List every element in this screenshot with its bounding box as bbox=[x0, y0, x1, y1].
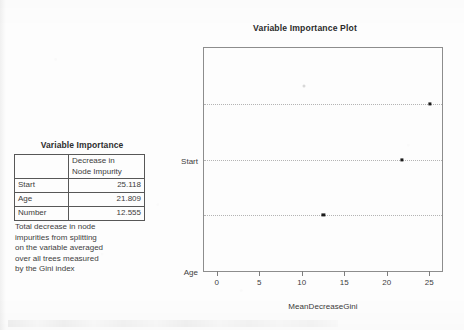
table-row-value: 21.809 bbox=[69, 193, 145, 207]
x-axis-tick-mark bbox=[217, 271, 218, 276]
x-axis-tick-mark bbox=[387, 271, 388, 276]
x-axis-tick-label: 10 bbox=[297, 278, 306, 287]
footnote-line: over all trees measured bbox=[15, 254, 151, 265]
grid-line: Age bbox=[204, 160, 442, 161]
plot-title: Variable Importance Plot bbox=[160, 23, 450, 33]
table-row-value: 25.118 bbox=[69, 179, 145, 193]
table-value-header-cell: Decrease in Node Impurity bbox=[69, 155, 145, 179]
x-axis-tick-mark bbox=[429, 271, 430, 276]
scanned-page: Variable Importance Decrease in Node Imp… bbox=[0, 0, 464, 330]
x-axis-tick-label: 15 bbox=[340, 278, 349, 287]
table-row-name: Number bbox=[15, 207, 69, 221]
scan-artifact-dot bbox=[302, 84, 305, 87]
x-axis-tick-mark bbox=[344, 271, 345, 276]
table-row-name: Age bbox=[15, 193, 69, 207]
variable-importance-plot-panel: Variable Importance Plot NumberAgeStart0… bbox=[160, 16, 460, 316]
data-point bbox=[429, 102, 432, 105]
table-row-name: Start bbox=[15, 179, 69, 193]
footnote-line: Total decrease in node bbox=[15, 222, 151, 233]
table-row: Number 12.555 bbox=[15, 207, 145, 221]
table-header-row: Decrease in Node Impurity bbox=[15, 155, 145, 179]
value-header-line-2: Node Impurity bbox=[72, 167, 141, 178]
table-row-value: 12.555 bbox=[69, 207, 145, 221]
table-row: Age 21.809 bbox=[15, 193, 145, 207]
value-header-line-1: Decrease in bbox=[72, 156, 141, 167]
data-point bbox=[401, 158, 404, 161]
footnote-line: by the Gini index bbox=[15, 264, 151, 275]
variable-importance-table: Decrease in Node Impurity Start 25.118 A… bbox=[14, 154, 145, 221]
footnote-line: impurities from splitting bbox=[15, 233, 151, 244]
x-axis-tick-label: 20 bbox=[382, 278, 391, 287]
footnote-line: on the variable averaged bbox=[15, 243, 151, 254]
scan-edge-smudge bbox=[0, 0, 6, 330]
data-point bbox=[322, 214, 325, 217]
x-axis-tick-mark bbox=[259, 271, 260, 276]
y-axis-tick-label: Age bbox=[184, 268, 198, 277]
table-caption: Variable Importance bbox=[14, 140, 150, 150]
scan-bottom-smudge bbox=[8, 320, 338, 327]
x-axis-tick-label: 25 bbox=[425, 278, 434, 287]
x-axis-tick-label: 5 bbox=[257, 278, 261, 287]
x-axis-title: MeanDecreaseGini bbox=[203, 302, 443, 311]
x-axis-tick-label: 0 bbox=[215, 278, 219, 287]
x-axis-tick-mark bbox=[302, 271, 303, 276]
grid-line: Start bbox=[204, 104, 442, 105]
table-footnote: Total decrease in node impurities from s… bbox=[14, 222, 151, 275]
variable-importance-table-panel: Variable Importance Decrease in Node Imp… bbox=[14, 140, 150, 275]
table-corner-cell bbox=[15, 155, 69, 179]
table-row: Start 25.118 bbox=[15, 179, 145, 193]
plot-area: NumberAgeStart0510152025 bbox=[203, 47, 443, 272]
y-axis-tick-label: Start bbox=[181, 156, 198, 165]
